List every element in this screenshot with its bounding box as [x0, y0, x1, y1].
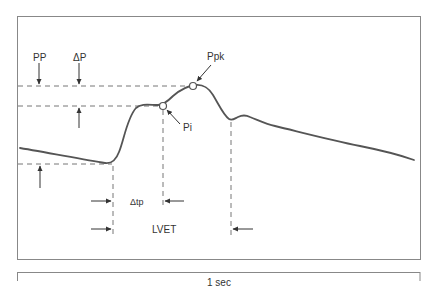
delta-p-label: ΔP: [73, 52, 87, 63]
scale-bar-label: 1 sec: [207, 277, 231, 288]
ppk-arrow: [197, 65, 211, 81]
reference-lines: [18, 86, 231, 236]
pi-point: [160, 103, 167, 110]
pi-arrow: [167, 110, 180, 124]
pi-label: Pi: [183, 122, 192, 133]
lvet-label: LVET: [152, 224, 176, 235]
ppk-point: [190, 83, 197, 90]
delta-tp-label: Δtp: [130, 197, 144, 207]
ppk-label: Ppk: [207, 51, 225, 62]
annotation-arrows: [39, 63, 253, 229]
pp-label: PP: [33, 52, 47, 63]
pressure-waveform-diagram: PP ΔP Ppk Pi Δtp LVET 1 sec: [0, 0, 434, 288]
